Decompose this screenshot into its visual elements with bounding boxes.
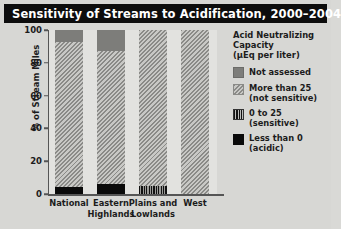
bar-segment-lessthan0 xyxy=(55,187,83,194)
legend-item-sublabel: (sensitive) xyxy=(249,118,299,128)
legend-item-label: Not assessed xyxy=(249,67,311,77)
y-tick-label: 20 xyxy=(30,156,42,166)
y-tick-mark xyxy=(44,62,48,64)
bar-west[interactable] xyxy=(181,30,209,194)
bar-segment-morethan25 xyxy=(97,51,125,184)
legend-item-label: 0 to 25(sensitive) xyxy=(249,108,299,128)
legend-title: Acid Neutralizing Capacity (µEq per lite… xyxy=(233,30,327,61)
x-axis-line xyxy=(48,194,224,196)
chart-title-bar: Sensitivity of Streams to Acidification,… xyxy=(4,4,327,23)
bar-national[interactable] xyxy=(55,30,83,194)
legend-item-sublabel: (not sensitive) xyxy=(249,93,317,103)
legend-title-line3: (µEq per liter) xyxy=(233,50,300,60)
page-title: Sensitivity of Streams to Acidification,… xyxy=(4,7,341,21)
bar-segment-notassessed xyxy=(55,30,83,41)
y-tick-label: 60 xyxy=(30,91,42,101)
chart-panel: % of Stream Miles 020406080100 NationalE… xyxy=(4,23,327,225)
y-tick-mark xyxy=(44,95,48,97)
x-tick-label: West xyxy=(165,198,225,209)
y-tick-mark xyxy=(44,29,48,31)
y-tick-label: 100 xyxy=(24,25,42,35)
legend-item-label: Less than 0(acidic) xyxy=(249,133,303,153)
legend-item[interactable]: 0 to 25(sensitive) xyxy=(233,108,327,128)
legend-swatch-notassessed xyxy=(233,67,244,78)
y-tick-mark xyxy=(44,128,48,130)
legend-item[interactable]: Not assessed xyxy=(233,67,327,79)
legend-item[interactable]: Less than 0(acidic) xyxy=(233,133,327,153)
bar-plains-and-lowlands[interactable] xyxy=(139,30,167,194)
y-tick-label: 40 xyxy=(30,123,42,133)
legend-items: Not assessedMore than 25(not sensitive)0… xyxy=(233,67,327,154)
y-tick-mark xyxy=(44,193,48,195)
legend-title-line1: Acid Neutralizing xyxy=(233,30,314,40)
y-tick-label: 80 xyxy=(30,58,42,68)
legend-title-line2: Capacity xyxy=(233,40,274,50)
legend: Acid Neutralizing Capacity (µEq per lite… xyxy=(233,30,327,158)
bar-segment-morethan25 xyxy=(55,42,83,188)
legend-item-label: More than 25(not sensitive) xyxy=(249,83,317,103)
legend-item-sublabel: (acidic) xyxy=(249,143,303,153)
legend-swatch-zeroto25 xyxy=(233,109,244,120)
bar-segment-morethan25 xyxy=(139,30,167,186)
bar-segment-morethan25 xyxy=(181,30,209,194)
legend-swatch-lessthan0 xyxy=(233,134,244,145)
y-tick-mark xyxy=(44,160,48,162)
legend-item[interactable]: More than 25(not sensitive) xyxy=(233,83,327,103)
legend-swatch-morethan25 xyxy=(233,84,244,95)
bar-segment-zeroto25 xyxy=(139,186,167,194)
bar-eastern-highlands[interactable] xyxy=(97,30,125,194)
x-tick-label-line: Lowlands xyxy=(123,209,183,220)
x-tick-label-line: West xyxy=(165,198,225,209)
bar-segment-lessthan0 xyxy=(97,184,125,194)
bar-segment-notassessed xyxy=(97,30,125,51)
